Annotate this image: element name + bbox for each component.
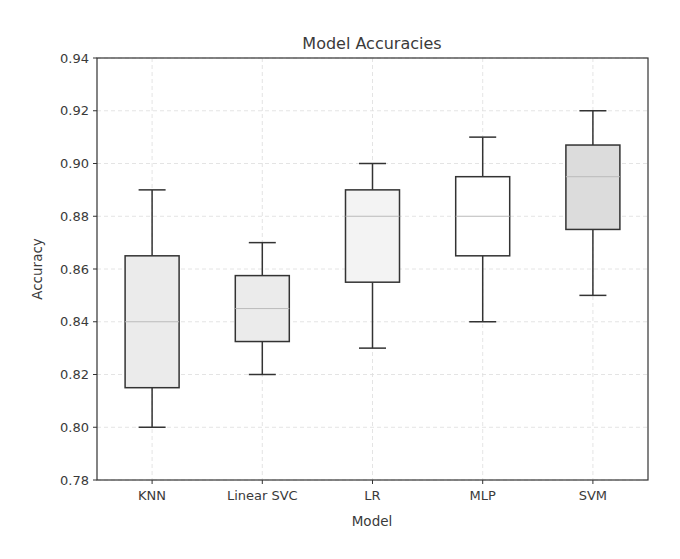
y-axis-ticks: 0.780.800.820.840.860.880.900.920.94 [60,51,97,488]
box-plot-chart: Model Accuracies 0.780.800.820.840.860.8… [0,0,680,559]
y-tick-label: 0.80 [60,420,89,435]
y-tick-label: 0.94 [60,51,89,66]
y-tick-label: 0.88 [60,209,89,224]
y-tick-label: 0.92 [60,103,89,118]
chart-title: Model Accuracies [302,34,441,53]
y-tick-label: 0.90 [60,156,89,171]
x-tick-label: Linear SVC [227,488,298,503]
box-linear-svc [235,243,289,375]
x-axis-ticks: KNNLinear SVCLRMLPSVM [138,480,607,503]
y-tick-label: 0.78 [60,473,89,488]
box-svm [566,111,620,296]
y-tick-label: 0.84 [60,314,89,329]
x-tick-label: MLP [470,488,496,503]
x-axis-title: Model [352,513,393,529]
iqr-box [566,145,620,229]
x-tick-label: LR [364,488,380,503]
y-axis-title: Accuracy [29,238,45,300]
box-knn [125,190,179,427]
box-lr [346,164,400,349]
x-tick-label: KNN [138,488,166,503]
box-mlp [456,137,510,322]
y-tick-label: 0.82 [60,367,89,382]
x-tick-label: SVM [579,488,607,503]
y-tick-label: 0.86 [60,262,89,277]
iqr-box [346,190,400,282]
